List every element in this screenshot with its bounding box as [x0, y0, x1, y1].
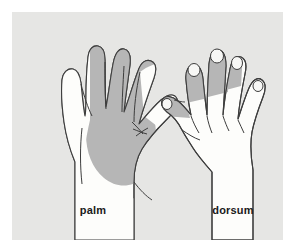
- palm-index-web-crease: [105, 62, 106, 109]
- figure-panel: palm dorsum: [12, 12, 283, 240]
- palm-hypothenar-edge: [134, 182, 152, 200]
- palm-label: palm: [12, 204, 174, 216]
- dorsum-little-nail-icon: [253, 81, 263, 92]
- dorsum-index-nail-icon: [188, 64, 200, 77]
- dorsum-ring-nail-icon: [232, 57, 243, 70]
- dorsum-thumb-nail-icon: [162, 99, 172, 110]
- dorsum-middle-nail-icon: [211, 49, 224, 63]
- dorsum-label: dorsum: [152, 204, 283, 216]
